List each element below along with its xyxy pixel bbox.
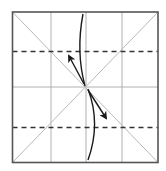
upper-fold-arrow (69, 14, 85, 86)
valley-fold-lines (13, 52, 159, 128)
origami-diagram (0, 0, 166, 171)
fold-path-curve (80, 14, 85, 86)
arrow-pointer-icon (88, 90, 106, 118)
